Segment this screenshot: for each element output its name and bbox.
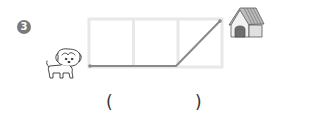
answer-blank[interactable] xyxy=(115,92,195,112)
grid xyxy=(89,19,222,67)
answer-close-paren: ) xyxy=(195,92,202,112)
route-path xyxy=(90,21,220,66)
answer-open-paren: ( xyxy=(106,92,113,112)
doghouse-icon xyxy=(229,8,264,37)
dog-icon xyxy=(47,49,82,78)
